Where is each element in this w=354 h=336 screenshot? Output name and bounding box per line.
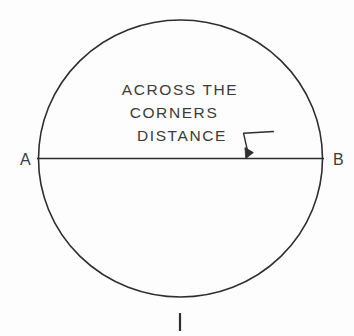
callout-line-3: DISTANCE (137, 127, 227, 144)
endpoint-label-a: A (20, 151, 31, 168)
callout-line-2: CORNERS (130, 104, 219, 121)
callout-line-1: ACROSS THE (122, 81, 239, 98)
across-corners-distance-diagram: ACROSS THE CORNERS DISTANCE A B (0, 0, 354, 336)
arrowhead-icon (245, 148, 254, 159)
leader-arrow-icon (244, 132, 274, 159)
diagram-canvas: ACROSS THE CORNERS DISTANCE A B (0, 0, 354, 336)
endpoint-label-b: B (333, 151, 344, 168)
